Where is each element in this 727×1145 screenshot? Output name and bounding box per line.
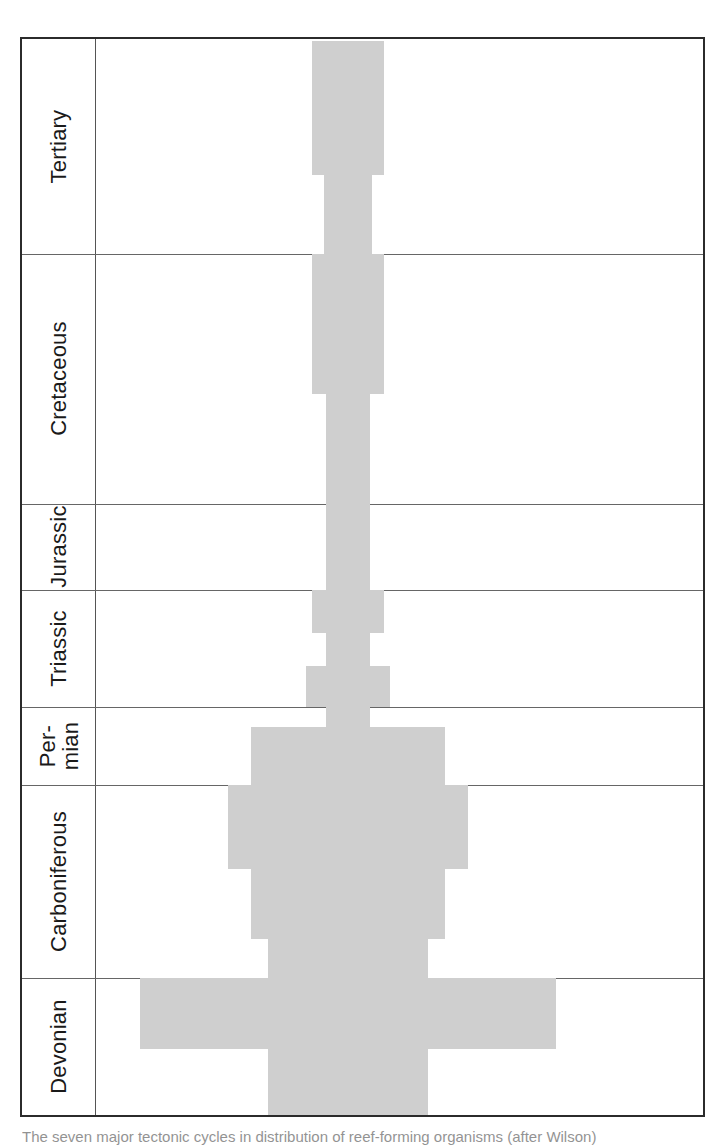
- period-cell-triassic: Triassic: [22, 590, 95, 707]
- spindle-band: [251, 727, 445, 785]
- period-label: Tertiary: [47, 110, 70, 184]
- chart-frame: TertiaryCretaceousJurassicTriassicPer- m…: [20, 37, 705, 1117]
- period-cell-permian: Per- mian: [22, 707, 95, 785]
- spindle-band: [326, 394, 370, 504]
- spindle-band: [140, 978, 556, 1049]
- spindle-band: [326, 504, 370, 590]
- plot-area: [96, 39, 703, 1115]
- figure-caption: The seven major tectonic cycles in distr…: [22, 1127, 712, 1145]
- period-label: Triassic: [47, 610, 70, 687]
- spindle-band: [312, 41, 384, 175]
- spindle-band: [268, 1049, 428, 1115]
- period-label: Devonian: [47, 999, 70, 1094]
- period-label: Cretaceous: [47, 322, 70, 437]
- period-label: Jurassic: [47, 506, 70, 588]
- period-cell-jurassic: Jurassic: [22, 504, 95, 590]
- period-cell-tertiary: Tertiary: [22, 39, 95, 254]
- spindle-band: [312, 254, 384, 394]
- period-label: Carboniferous: [47, 811, 70, 952]
- spindle-band: [268, 939, 428, 978]
- period-cell-devonian: Devonian: [22, 978, 95, 1115]
- spindle-band: [228, 785, 468, 869]
- spindle-diagram-figure: TertiaryCretaceousJurassicTriassicPer- m…: [0, 0, 727, 1145]
- spindle-band: [306, 666, 390, 707]
- spindle-band: [312, 590, 384, 633]
- period-label: Per- mian: [35, 715, 81, 777]
- period-cell-carboniferous: Carboniferous: [22, 785, 95, 978]
- spindle-band: [251, 869, 445, 939]
- spindle-band: [324, 175, 372, 254]
- period-cell-cretaceous: Cretaceous: [22, 254, 95, 504]
- spindle-band: [326, 633, 370, 666]
- spindle-band: [326, 707, 370, 727]
